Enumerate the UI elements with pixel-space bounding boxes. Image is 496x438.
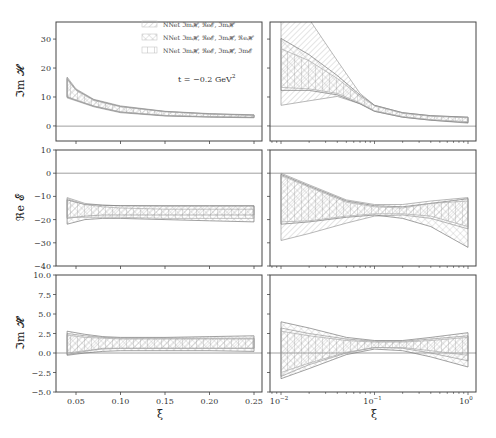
- y-mid-tick-label: −20: [34, 216, 51, 225]
- legend-label-1: NNet ℑm𝓗, ℜe𝓔, ℑm𝓗̃: [163, 21, 235, 28]
- x-tick-label: 0.15: [156, 397, 174, 406]
- panel-re-e-linear: [56, 150, 262, 269]
- uncertainty-band-3: [67, 79, 254, 117]
- panel-im-htilde-log: [270, 275, 476, 395]
- y-top-tick-label: 0: [46, 122, 51, 131]
- y-bot-tick-label: 0.0: [38, 349, 51, 358]
- y-mid-tick-label: −10: [34, 192, 51, 201]
- x-tick-label: 0.25: [245, 397, 263, 406]
- x-tick-label-log: 10−2: [270, 395, 288, 406]
- y-mid-tick-label: −30: [34, 239, 51, 248]
- y-bot-tick-label: 7.5: [38, 291, 51, 300]
- x-tick-label-log: 100: [459, 395, 473, 406]
- y-bot-tick-label: −5.0: [32, 388, 51, 397]
- legend-label-3: NNet ℑm𝓗, ℜe𝓔, ℑm𝓗̃, ℑm𝓔: [163, 47, 253, 54]
- legend-swatch-2: [142, 34, 157, 40]
- panel-re-e-log: [270, 150, 476, 269]
- panel-im-htilde-linear: [56, 275, 262, 395]
- panel-im-h-log: [270, 19, 476, 144]
- y-top-tick-label: 10: [41, 93, 51, 102]
- x-tick-label: 0.20: [201, 397, 219, 406]
- y-mid-tick-label: 10: [41, 146, 51, 155]
- x-tick-label: 0.05: [67, 397, 85, 406]
- legend: NNet ℑm𝓗, ℜe𝓔, ℑm𝓗̃ NNet ℑm𝓗, ℜe𝓔, ℑm𝓗̃,…: [142, 21, 254, 54]
- figure: ℑm 𝓗 ℜe 𝓔 ℑm 𝓗̃ ξ ξ NNet ℑm𝓗, ℜe𝓔, ℑm𝓗̃ …: [0, 0, 496, 438]
- y-bot-tick-label: 10.0: [33, 271, 51, 280]
- y-top-tick-label: 30: [41, 35, 51, 44]
- axes-frame: [56, 275, 262, 392]
- y-mid-tick-label: 0: [46, 169, 51, 178]
- y-bot-tick-label: 5.0: [38, 310, 51, 319]
- t-annotation: t = −0.2 GeV2: [178, 73, 235, 84]
- legend-swatch-1: [142, 21, 157, 27]
- legend-swatch-3: [142, 47, 157, 53]
- x-tick-label: 0.10: [112, 397, 130, 406]
- ylabel-im-htilde: ℑm 𝓗̃: [14, 315, 27, 350]
- x-tick-label-log: 10−1: [363, 395, 381, 406]
- ylabel-re-e: ℜe 𝓔: [14, 194, 27, 221]
- ylabel-im-h: ℑm 𝓗: [14, 63, 27, 98]
- xlabel-right: ξ: [371, 408, 377, 421]
- y-bot-tick-label: −2.5: [32, 369, 51, 378]
- y-mid-tick-label: −40: [34, 262, 51, 271]
- y-top-tick-label: 20: [41, 64, 51, 73]
- y-bot-tick-label: 2.5: [38, 330, 51, 339]
- xlabel-left: ξ: [157, 408, 163, 421]
- legend-label-2: NNet ℑm𝓗, ℜe𝓔, ℑm𝓗̃, ℜe𝓗: [163, 34, 254, 41]
